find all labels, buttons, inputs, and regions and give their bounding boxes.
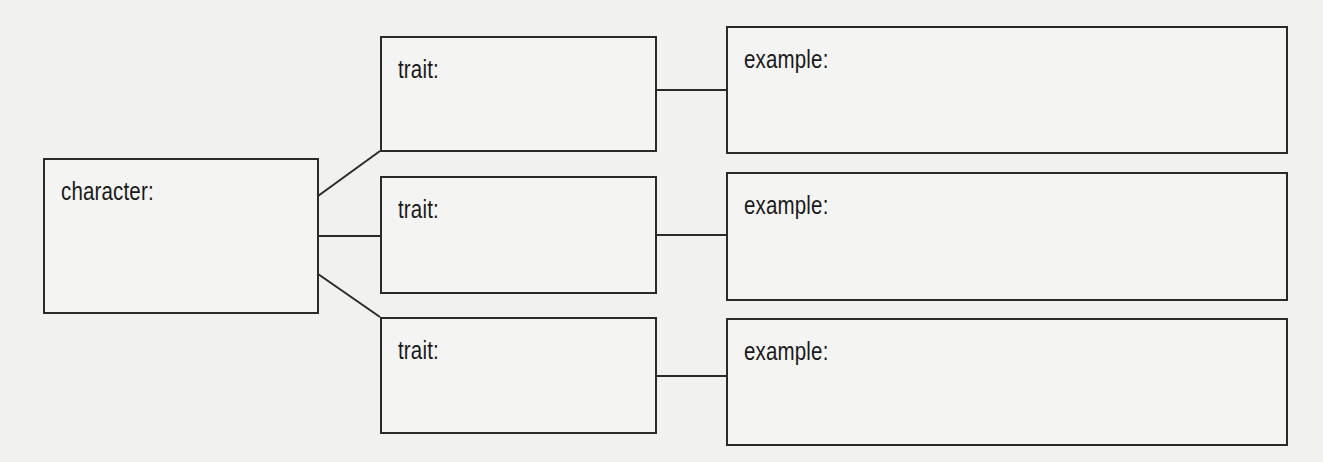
example-label: example: [744,191,828,220]
example-box-3: example: [726,318,1288,446]
trait-box-2: trait: [380,176,657,294]
example-label: example: [744,337,828,366]
connector-character-trait-3 [318,274,380,317]
connector-character-trait-1 [318,151,380,196]
trait-label: trait: [398,195,439,224]
example-label: example: [744,45,828,74]
trait-box-3: trait: [380,317,657,434]
trait-box-1: trait: [380,36,657,152]
example-box-2: example: [726,172,1288,301]
example-box-1: example: [726,26,1288,154]
trait-label: trait: [398,336,439,365]
trait-label: trait: [398,55,439,84]
character-box: character: [43,158,319,314]
character-label: character: [61,177,154,206]
